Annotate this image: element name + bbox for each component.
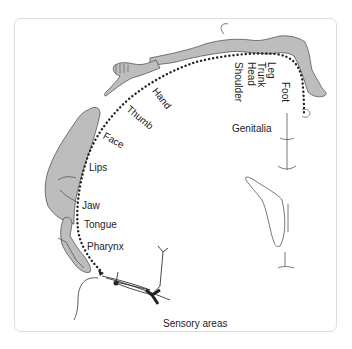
homunculus-illustration (0, 0, 352, 349)
cortex-dotted-line (77, 53, 304, 270)
label-genitalia: Genitalia (232, 124, 271, 134)
label-shoulder: Shoulder (233, 62, 243, 102)
label-pharynx: Pharynx (87, 242, 124, 252)
label-foot: Foot (280, 82, 290, 102)
label-jaw: Jaw (82, 201, 100, 211)
ventricle-shape (245, 177, 284, 247)
label-lips: Lips (89, 163, 107, 173)
label-tongue: Tongue (84, 220, 117, 230)
label-head: Head (246, 62, 256, 86)
label-leg: Leg (266, 62, 276, 79)
label-trunk: Trunk (256, 62, 266, 87)
diagram-caption: Sensory areas (163, 318, 227, 329)
